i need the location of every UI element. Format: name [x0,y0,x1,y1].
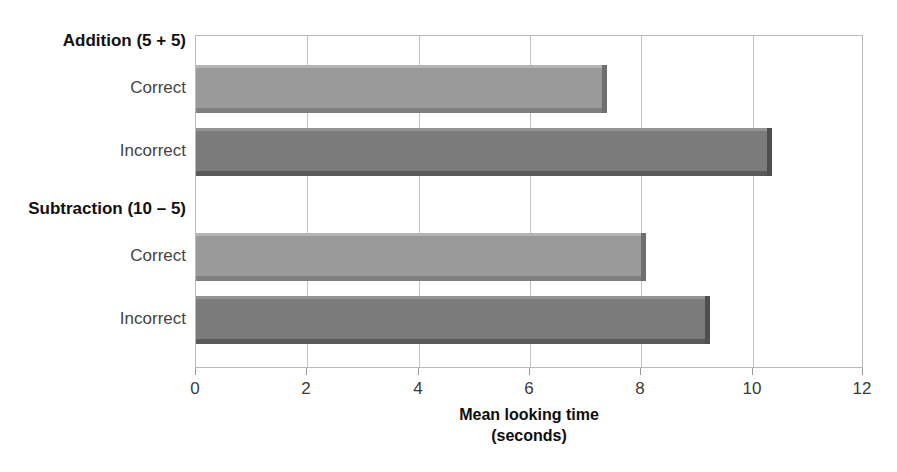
bar-subtraction-correct[interactable] [196,233,641,281]
group-label-subtraction: Subtraction (10 – 5) [1,199,186,219]
x-axis-title-line-1: Mean looking time [459,406,599,423]
category-axis-labels: Addition (5 + 5) Correct Incorrect Subtr… [0,0,186,472]
bar-shadow [196,108,602,113]
bar-end-cap [767,128,772,176]
bar-shadow [196,171,767,176]
bar-addition-correct[interactable] [196,65,602,113]
bar-highlight [196,233,641,236]
x-axis-title: Mean looking time (seconds) [195,404,863,446]
tick-mark-10 [752,368,753,375]
bar-subtraction-incorrect[interactable] [196,296,705,344]
bar-chart-figure: Addition (5 + 5) Correct Incorrect Subtr… [0,0,897,472]
bar-highlight [196,65,602,68]
category-label-subtraction-incorrect: Incorrect [1,309,186,329]
tick-mark-12 [862,368,863,375]
tick-mark-6 [529,368,530,375]
gridline-10 [753,36,754,367]
tick-label-4: 4 [398,378,438,400]
tick-label-2: 2 [286,378,326,400]
bar-body [196,296,705,344]
bar-body [196,65,602,113]
tick-mark-8 [640,368,641,375]
x-axis-title-line-2: (seconds) [195,425,863,446]
bar-body [196,233,641,281]
bar-body [196,128,767,176]
bar-end-cap [602,65,607,113]
tick-label-6: 6 [509,378,549,400]
category-label-subtraction-correct: Correct [1,246,186,266]
tick-label-10: 10 [732,378,772,400]
category-label-addition-incorrect: Incorrect [1,141,186,161]
bar-end-cap [705,296,710,344]
group-label-addition: Addition (5 + 5) [1,31,186,51]
tick-label-8: 8 [620,378,660,400]
tick-mark-0 [195,368,196,375]
bar-highlight [196,128,767,131]
bar-highlight [196,296,705,299]
bar-shadow [196,276,641,281]
bar-end-cap [641,233,646,281]
plot-area [195,35,863,368]
bar-addition-incorrect[interactable] [196,128,767,176]
tick-mark-2 [306,368,307,375]
category-label-addition-correct: Correct [1,78,186,98]
tick-label-0: 0 [175,378,215,400]
bar-shadow [196,339,705,344]
tick-label-12: 12 [842,378,882,400]
tick-mark-4 [418,368,419,375]
